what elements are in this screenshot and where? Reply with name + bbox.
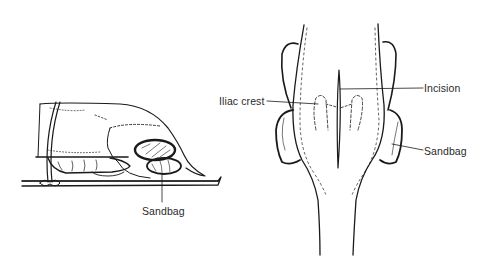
sandbag-label-left: Sandbag xyxy=(142,205,185,217)
incision-label: Incision xyxy=(424,82,460,94)
sandbag-right xyxy=(380,110,402,164)
body-right-contour xyxy=(353,24,384,255)
sandbag-label-right: Sandbag xyxy=(424,145,467,157)
incision xyxy=(337,70,340,168)
right-thigh xyxy=(383,42,396,110)
sandbag-left xyxy=(276,110,300,164)
iliac-crest-left xyxy=(314,95,328,130)
dorsal-view-drawing xyxy=(0,0,487,267)
incision-leader xyxy=(340,88,423,89)
surgical-positioning-illustration: Sandbag Iliac crest Incision Sandbag xyxy=(0,0,487,267)
iliac-crest-right xyxy=(350,95,363,130)
sandbag-leader-right xyxy=(392,144,423,150)
body-left-contour xyxy=(293,25,320,255)
iliac-crest-label: Iliac crest xyxy=(219,95,264,107)
